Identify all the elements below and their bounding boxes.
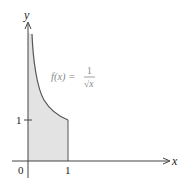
- y-tick-label: 1: [16, 114, 22, 126]
- y-axis-label: y: [23, 8, 30, 22]
- diagram: y x 0 1 1 f(x) = 1 √x: [0, 0, 187, 184]
- shaded-area: [28, 33, 68, 161]
- fraction-numerator: 1: [87, 66, 92, 76]
- fraction-denominator: √x: [84, 79, 94, 89]
- origin-label: 0: [18, 164, 24, 176]
- x-tick-label: 1: [65, 164, 71, 176]
- function-label: f(x) =: [51, 71, 75, 83]
- x-axis-label: x: [171, 154, 178, 168]
